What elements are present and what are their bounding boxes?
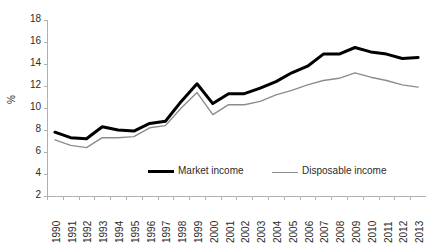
legend-swatch (272, 172, 298, 173)
line-chart: % 24681012141618 19901991199219931994199… (0, 0, 448, 248)
legend-label: Disposable income (302, 165, 387, 176)
legend-swatch (148, 170, 174, 173)
series-line (55, 48, 418, 139)
legend-label: Market income (178, 165, 244, 176)
series-line (55, 73, 418, 148)
plot-area (0, 0, 448, 248)
